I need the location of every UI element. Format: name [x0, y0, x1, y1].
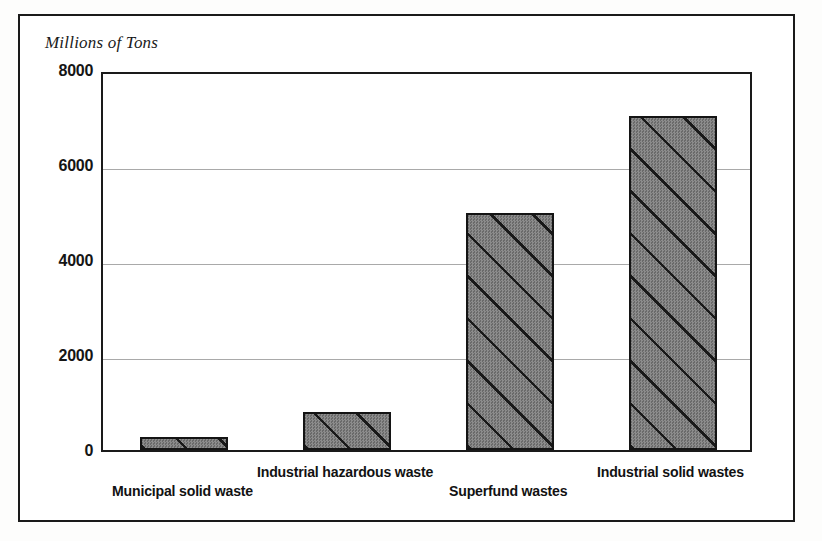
bar[interactable] — [303, 412, 391, 450]
y-axis-tick-label: 8000 — [59, 62, 93, 80]
y-axis-tick-label: 4000 — [59, 252, 93, 270]
x-axis-category-label: Industrial solid wastes — [597, 463, 744, 480]
plot-area — [101, 72, 752, 452]
y-axis-tick-labels: 02000400060008000 — [30, 72, 93, 452]
x-axis-category-label: Industrial hazardous waste — [257, 463, 433, 480]
y-axis-tick-label: 6000 — [59, 157, 93, 175]
chart-axis-title: Millions of Tons — [45, 33, 158, 53]
x-axis-category-label: Municipal solid waste — [112, 482, 253, 499]
bar[interactable] — [140, 437, 228, 450]
y-axis-tick-label: 2000 — [59, 347, 93, 365]
bar[interactable] — [629, 116, 717, 450]
y-axis-tick-label: 0 — [84, 442, 93, 460]
bar[interactable] — [466, 213, 554, 451]
x-axis-category-label: Superfund wastes — [449, 482, 567, 499]
chart-figure: Millions of Tons 02000400060008000 Munic… — [0, 0, 822, 541]
bars-layer — [103, 74, 750, 450]
